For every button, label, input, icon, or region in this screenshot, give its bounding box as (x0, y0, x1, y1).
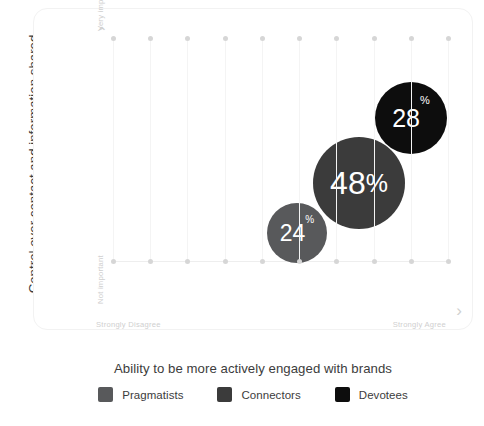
chart-card: Very important Not important ⌃ Strongly … (33, 8, 473, 330)
grid-dot-top (111, 36, 116, 41)
legend-swatch-connectors (217, 387, 232, 402)
legend-item-pragmatists[interactable]: Pragmatists (98, 387, 183, 402)
legend-swatch-pragmatists (98, 387, 113, 402)
gridline (299, 38, 300, 262)
grid-dot-bottom (297, 259, 302, 264)
gridline (113, 38, 114, 262)
grid-dot-bottom (334, 259, 339, 264)
bubble-connectors-percent: % (366, 171, 388, 196)
x-axis-left-label: Strongly Disagree (96, 320, 161, 329)
legend-label-devotees: Devotees (359, 389, 408, 401)
grid-dot-bottom (260, 259, 265, 264)
x-axis-arrow-icon: › (456, 302, 462, 319)
bubble-connectors[interactable]: 48 % (313, 137, 405, 229)
grid-dot-top (260, 36, 265, 41)
grid-dot-top (185, 36, 190, 41)
chart-legend: Pragmatists Connectors Devotees (33, 387, 473, 402)
gridline (150, 38, 151, 262)
grid-dot-bottom (446, 259, 451, 264)
grid-dot-bottom (372, 259, 377, 264)
y-axis-bottom-label: Not important (96, 255, 105, 304)
bubble-pragmatists[interactable]: 24 % (267, 203, 327, 263)
plot-area: 24 % 48 % 28 % (105, 26, 460, 274)
grid-dot-top (446, 36, 451, 41)
legend-swatch-devotees (335, 387, 350, 402)
gridline (187, 38, 188, 262)
gridline (336, 38, 337, 262)
grid-dot-top (372, 36, 377, 41)
gridline (448, 38, 449, 262)
gridline (411, 38, 412, 262)
gridline (262, 38, 263, 262)
gridline (374, 38, 375, 262)
grid-dot-top (148, 36, 153, 41)
legend-label-connectors: Connectors (241, 389, 300, 401)
legend-label-pragmatists: Pragmatists (122, 389, 183, 401)
x-axis-right-label: Strongly Agree (393, 320, 446, 329)
gridline (225, 38, 226, 262)
grid-dot-top (297, 36, 302, 41)
bubble-pragmatists-value: 24 (280, 222, 306, 245)
grid-dot-top (223, 36, 228, 41)
grid-dot-top (334, 36, 339, 41)
grid-dot-bottom (111, 259, 116, 264)
grid-dot-bottom (185, 259, 190, 264)
grid-dot-bottom (409, 259, 414, 264)
x-axis-title: Ability to be more actively engaged with… (33, 361, 473, 376)
grid-dot-bottom (223, 259, 228, 264)
legend-item-devotees[interactable]: Devotees (335, 387, 408, 402)
bubble-devotees-value: 28 (392, 106, 420, 131)
bubble-pragmatists-percent: % (305, 215, 314, 225)
grid-dot-bottom (148, 259, 153, 264)
legend-item-connectors[interactable]: Connectors (217, 387, 300, 402)
grid-dot-top (409, 36, 414, 41)
bubble-devotees-percent: % (420, 95, 430, 106)
x-axis-baseline (113, 261, 448, 262)
